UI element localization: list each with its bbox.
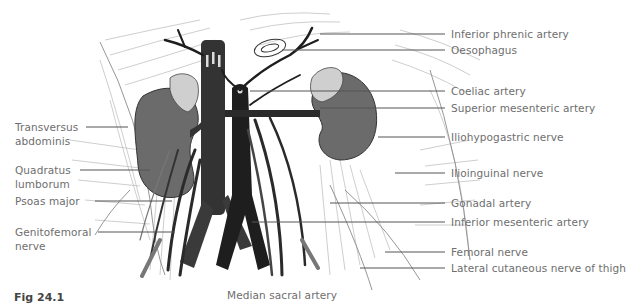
label-transversus-abdominis: Transversus abdominis (15, 120, 78, 148)
label-line: nerve (15, 239, 92, 253)
label-line: lumborum (15, 177, 71, 191)
label-line: Transversus (15, 120, 78, 134)
label-psoas-major: Psoas major (15, 194, 80, 208)
oesophagus-outline (252, 36, 287, 60)
label-coeliac-artery: Coeliac artery (451, 84, 526, 98)
label-line: Quadratus (15, 163, 71, 177)
label-inferior-phrenic-artery: Inferior phrenic artery (451, 27, 569, 41)
label-gonadal-artery: Gonadal artery (451, 196, 531, 210)
label-line: Psoas major (15, 194, 80, 208)
label-median-sacral-artery: Median sacral artery (227, 288, 337, 302)
label-quadratus-lumborum: Quadratus lumborum (15, 163, 71, 191)
label-inferior-mesenteric-artery: Inferior mesenteric artery (451, 215, 589, 229)
label-iliohypogastric-nerve: Iliohypogastric nerve (451, 130, 564, 144)
label-line: abdominis (15, 134, 78, 148)
label-genitofemoral-nerve: Genitofemoral nerve (15, 225, 92, 253)
label-femoral-nerve: Femoral nerve (451, 245, 528, 259)
label-superior-mesenteric-artery: Superior mesenteric artery (451, 101, 595, 115)
label-line: Genitofemoral (15, 225, 92, 239)
label-oesophagus: Oesophagus (451, 43, 517, 57)
label-ilioinguinal-nerve: Ilioinguinal nerve (451, 166, 543, 180)
figure-caption: Fig 24.1 (14, 291, 64, 304)
label-lateral-cutaneous-nerve-of-thigh: Lateral cutaneous nerve of thigh (451, 261, 626, 275)
leader-lines (80, 34, 445, 268)
